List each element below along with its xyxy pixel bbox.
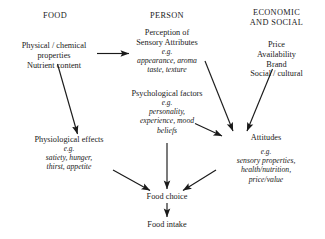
node-economic-items: Price Availability Brand Social / cultur… [228,40,325,79]
edge-food-to-physiological [58,64,78,134]
column-heading-food: FOOD [0,11,110,21]
node-food-properties: Physical / chemical properties Nutrient … [0,41,109,70]
column-heading-person: PERSON [112,11,222,21]
food-choice-diagram: FOOD PERSON ECONOMIC AND SOCIAL Physical… [0,0,325,239]
node-psychological-factors: Psychological factors e.g. personality, … [111,89,223,135]
node-food-intake: Food intake [117,220,217,230]
node-perception-of-sensory-attributes: Perception of Sensory Attributes e.g. ap… [112,28,222,74]
node-attitudes: Attitudes e.g. sensory properties, healt… [213,133,319,184]
node-food-choice: Food choice [117,192,217,202]
node-physiological-effects: Physiological effects e.g. satiety, hung… [14,135,124,172]
edge-attitudes-to-food-choice [183,170,216,191]
column-heading-economic-and-social: ECONOMIC AND SOCIAL [228,8,325,28]
edge-physiological-to-food-choice [113,170,150,191]
